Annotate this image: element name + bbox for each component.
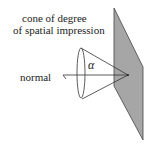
surface-plane — [114, 8, 143, 140]
normal-label: normal — [20, 71, 51, 83]
apex-point — [127, 74, 129, 76]
angle-label: α — [88, 59, 94, 71]
title-line-1: cone of degree — [22, 12, 87, 24]
normal-line-tail — [63, 75, 66, 79]
cone-base — [77, 48, 85, 98]
title-line-2: of spatial impression — [13, 24, 105, 36]
